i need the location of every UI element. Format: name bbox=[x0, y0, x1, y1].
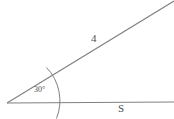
diagonal-ray-line bbox=[7, 1, 174, 103]
base-ray-line bbox=[7, 102, 174, 103]
hypotenuse-length-label: 4 bbox=[91, 33, 97, 44]
geometry-figure: 4 S 30° bbox=[0, 0, 174, 119]
angle-diagram-svg bbox=[0, 0, 174, 119]
angle-measure-label: 30° bbox=[34, 86, 45, 94]
base-side-label: S bbox=[118, 103, 124, 114]
